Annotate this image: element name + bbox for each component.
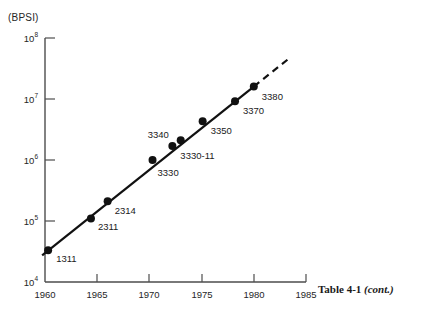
data-point-label: 2311 [98, 221, 118, 232]
data-point-marker [149, 156, 157, 164]
data-point-label: 3340 [148, 129, 169, 140]
data-point-label: 3350 [211, 125, 232, 136]
data-point-marker [199, 117, 207, 125]
data-point-marker [44, 246, 52, 254]
data-series-layer [42, 59, 288, 255]
data-point-label: 2314 [115, 205, 136, 216]
data-point-label: 3380 [262, 91, 283, 102]
figure-container: (BPSI) 108 107 106 105 104 1960 1965 197… [0, 0, 421, 318]
data-point-label: 3330-11 [180, 150, 214, 161]
data-point-marker [231, 97, 239, 105]
axis-lines [45, 38, 306, 282]
x-axis-ticks [97, 274, 306, 282]
caption-table-number: Table 4-1 [318, 283, 361, 295]
caption-continued: (cont.) [364, 283, 394, 295]
data-point-label: 3370 [243, 105, 264, 116]
data-point-label: 3330 [158, 167, 179, 178]
data-point-marker [250, 83, 258, 91]
trend-line-dashed-extension [254, 59, 288, 86]
data-point-marker [177, 136, 185, 144]
data-point-marker [104, 197, 112, 205]
y-axis-ticks [45, 38, 55, 221]
figure-caption: Table 4-1 (cont.) [318, 283, 394, 295]
data-point-label: 1311 [56, 253, 76, 264]
trend-line-solid [42, 87, 254, 256]
data-point-marker [87, 214, 95, 222]
data-point-marker [168, 142, 176, 150]
